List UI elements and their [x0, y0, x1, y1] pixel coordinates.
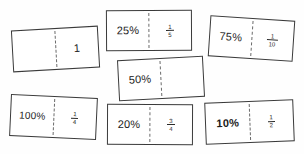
domino-left-label: 10%: [216, 117, 239, 129]
domino-left-half: 75%: [209, 16, 253, 58]
domino-left-label: 100%: [19, 110, 46, 121]
domino-right-fraction: 1 2: [267, 114, 275, 128]
domino-right-fraction: 1 4: [71, 111, 79, 125]
domino-left-half: 10%: [205, 102, 250, 144]
domino-left-half: [12, 29, 57, 71]
domino-right-whole: 1: [73, 42, 80, 53]
domino-card-20-percent[interactable]: 20% 3 4: [107, 104, 193, 145]
domino-right-half: 1 5: [149, 11, 191, 50]
fraction-denominator: 4: [71, 117, 79, 125]
fraction-denominator: 2: [268, 121, 276, 129]
domino-left-half: 50%: [118, 59, 162, 100]
domino-card-25-percent[interactable]: 25% 1 5: [106, 10, 192, 51]
domino-right-half: 1: [54, 27, 99, 69]
fraction-denominator: 5: [166, 30, 173, 38]
domino-card-10-percent[interactable]: 10% 1 2: [204, 99, 295, 144]
fraction-denominator: 10: [266, 39, 277, 47]
domino-right-half: [160, 57, 204, 98]
domino-right-fraction: 1 5: [166, 23, 173, 37]
domino-right-half: 3 4: [150, 105, 192, 144]
domino-card-50-percent[interactable]: 50%: [117, 56, 205, 101]
domino-right-half: 1 2: [249, 100, 294, 142]
domino-left-half: 100%: [10, 95, 54, 137]
domino-card-75-percent[interactable]: 75% 1 10: [208, 15, 296, 62]
domino-card-100-percent[interactable]: 100% 1 4: [9, 94, 98, 140]
domino-left-label: 20%: [118, 119, 141, 130]
domino-left-label: 50%: [128, 74, 151, 86]
domino-right-half: 1 4: [53, 97, 97, 139]
domino-right-fraction: 3 4: [167, 118, 174, 132]
domino-left-label: 75%: [219, 31, 242, 43]
domino-left-half: 20%: [108, 105, 150, 144]
domino-left-label: 25%: [117, 25, 140, 36]
domino-right-half: 1 10: [250, 19, 294, 61]
domino-left-half: 25%: [107, 11, 149, 50]
fraction-denominator: 4: [167, 124, 174, 132]
domino-worksheet: 1 25% 1 5 75% 1 10 50%: [0, 0, 304, 154]
domino-right-fraction: 1 10: [266, 33, 278, 48]
domino-card-whole-one[interactable]: 1: [11, 26, 100, 73]
